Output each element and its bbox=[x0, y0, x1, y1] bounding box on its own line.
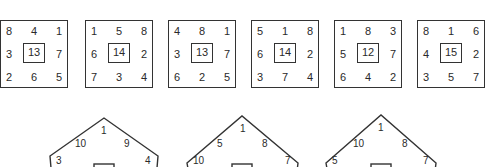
label: 7 bbox=[423, 155, 429, 166]
label: 5 bbox=[217, 138, 223, 149]
pentagon-diagrams: 1 10 9 3 4 1 5 8 10 7 1 10 8 5 7 bbox=[0, 0, 491, 167]
label: 7 bbox=[285, 155, 291, 166]
label: 10 bbox=[353, 138, 365, 149]
label: 1 bbox=[101, 125, 107, 136]
label: 10 bbox=[193, 155, 205, 166]
label: 4 bbox=[145, 155, 151, 166]
label: 5 bbox=[332, 155, 338, 166]
label: 9 bbox=[124, 138, 130, 149]
label: 8 bbox=[262, 138, 268, 149]
label: 3 bbox=[56, 155, 62, 166]
label: 1 bbox=[378, 122, 384, 133]
label: 1 bbox=[240, 123, 246, 134]
label: 8 bbox=[402, 138, 408, 149]
label: 10 bbox=[75, 138, 87, 149]
